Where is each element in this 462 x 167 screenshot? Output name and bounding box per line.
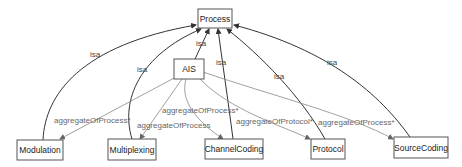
node-label: SourceCoding (394, 143, 448, 153)
edge-label: isa (90, 50, 101, 59)
node-sourcecoding[interactable]: SourceCoding (394, 137, 448, 158)
node-label: Process (200, 14, 231, 24)
node-label: Modulation (19, 145, 61, 155)
edge-label: isa (327, 58, 338, 67)
edge-label: aggregateOfProcess* (318, 118, 395, 127)
edge-label: aggregateOfProcess (137, 121, 210, 130)
edge-ais-aggregate-channelcoding: aggregateOfProcess* (162, 79, 239, 139)
edge-ais-isa-process: isa (195, 29, 209, 59)
edge-label: aggregateOfProtocol* (236, 117, 313, 126)
node-label: AIS (182, 64, 196, 74)
edge-label: isa (196, 39, 207, 48)
edge-label: isa (137, 65, 148, 74)
node-channelcoding[interactable]: ChannelCoding (205, 139, 264, 159)
node-multiplexing[interactable]: Multiplexing (108, 139, 156, 160)
node-label: Protocol (312, 144, 343, 154)
node-process[interactable]: Process (198, 9, 232, 28)
edge-label: isa (216, 58, 227, 67)
node-label: Multiplexing (110, 145, 155, 155)
node-protocol[interactable]: Protocol (311, 139, 345, 159)
edge-label: isa (274, 72, 285, 81)
node-label: ChannelCoding (205, 144, 264, 154)
node-modulation[interactable]: Modulation (17, 140, 63, 160)
edge-label: aggregateOfProcess* (54, 116, 131, 125)
node-ais[interactable]: AIS (174, 59, 204, 79)
edge-channelcoding-isa-process: isa (216, 29, 233, 139)
edge-label: aggregateOfProcess* (162, 106, 239, 115)
ontology-diagram: isa isa isa isa isa isa aggregateOfProce… (0, 0, 462, 167)
